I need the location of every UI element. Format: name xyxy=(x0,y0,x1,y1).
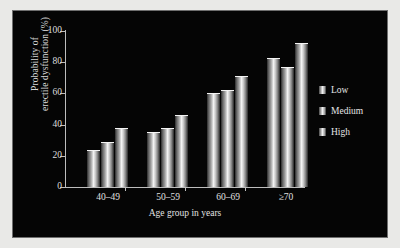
bar-high[interactable] xyxy=(295,43,308,187)
x-axis-title: Age group in years xyxy=(65,208,305,218)
bar-medium[interactable] xyxy=(101,142,114,187)
y-tick-label-80: 80 xyxy=(53,56,63,66)
bar-low[interactable] xyxy=(147,132,160,187)
x-tick-divider-2 xyxy=(185,187,186,191)
bar-medium[interactable] xyxy=(221,90,234,187)
x-tick-divider-1 xyxy=(125,187,126,191)
legend-swatch-icon xyxy=(319,107,326,115)
x-tick-divider-3 xyxy=(245,187,246,191)
bar-medium[interactable] xyxy=(281,67,294,187)
y-tick-label-20: 20 xyxy=(53,150,63,160)
y-axis-title-line-1: Probability of xyxy=(31,37,41,91)
figure: Probability of erectile dysfunction (%) … xyxy=(0,0,400,248)
bar-low[interactable] xyxy=(207,93,220,187)
bar-low[interactable] xyxy=(267,58,280,187)
legend-item-low[interactable]: Low xyxy=(319,85,363,95)
legend-swatch-icon xyxy=(319,86,326,94)
chart-panel: Probability of erectile dysfunction (%) … xyxy=(12,10,388,238)
bar-medium[interactable] xyxy=(161,128,174,187)
y-tick-label-0: 0 xyxy=(57,181,62,191)
bar-high[interactable] xyxy=(175,115,188,187)
legend-item-high[interactable]: High xyxy=(319,127,363,137)
legend-swatch-icon xyxy=(319,128,326,136)
legend-label-medium: Medium xyxy=(331,106,363,116)
legend-label-high: High xyxy=(331,127,350,137)
bar-high[interactable] xyxy=(235,76,248,187)
x-axis-label-50-59: 50–59 xyxy=(156,192,180,202)
legend-label-low: Low xyxy=(331,85,348,95)
bar-low[interactable] xyxy=(87,150,100,187)
y-tick-label-60: 60 xyxy=(53,87,63,97)
plot-area: 0 20 40 60 80 100 xyxy=(65,31,303,187)
legend: Low Medium High xyxy=(319,85,363,148)
x-axis-label-40-49: 40–49 xyxy=(96,192,120,202)
x-axis-label-60-69: 60–69 xyxy=(216,192,240,202)
y-tick-label-100: 100 xyxy=(48,25,62,35)
x-axis-label-70-plus: ≥70 xyxy=(279,192,294,202)
bar-high[interactable] xyxy=(115,128,128,187)
legend-item-medium[interactable]: Medium xyxy=(319,106,363,116)
y-tick-label-40: 40 xyxy=(53,119,63,129)
